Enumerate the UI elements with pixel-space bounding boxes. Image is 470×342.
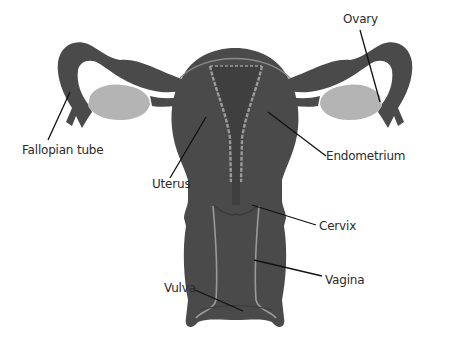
- fallopian-tube-leader: [48, 92, 70, 140]
- label-endometrium: Endometrium: [326, 149, 405, 163]
- left-ovary: [88, 84, 150, 120]
- reproductive-system-diagram: Ovary Fallopian tube Endometrium Uterus …: [0, 0, 470, 342]
- label-uterus: Uterus: [152, 177, 190, 191]
- label-vagina: Vagina: [325, 273, 364, 287]
- right-ovary: [320, 84, 382, 120]
- label-cervix: Cervix: [319, 219, 356, 233]
- label-fallopian-tube: Fallopian tube: [22, 143, 103, 157]
- label-vulva: Vulva: [164, 281, 196, 295]
- label-ovary: Ovary: [343, 12, 378, 26]
- anatomy-illustration: [0, 0, 470, 342]
